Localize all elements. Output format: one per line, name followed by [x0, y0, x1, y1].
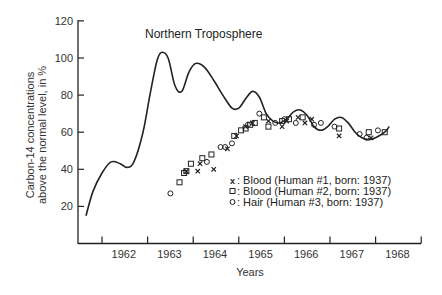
chart-title: Northern Troposphere — [145, 27, 263, 41]
circle-marker — [293, 120, 298, 125]
x-marker — [296, 115, 300, 119]
x-tick-label: 1964 — [203, 248, 227, 260]
y-axis-title: Carbon-14 concentrations above the norma… — [24, 66, 48, 204]
circle-marker — [318, 120, 323, 125]
y-tick-label: 120 — [55, 15, 73, 27]
x-marker-icon: x — [230, 176, 235, 186]
x-tick-label: 1967 — [340, 248, 364, 260]
x-tick-label: 1962 — [112, 248, 136, 260]
x-tick-label: 1966 — [294, 248, 318, 260]
x-marker — [280, 124, 284, 128]
x-marker — [337, 134, 341, 138]
x-tick-label: 1965 — [248, 248, 272, 260]
legend-item-hair-3: : Hair (Human #3, born: 1937) — [230, 196, 383, 208]
square-marker — [177, 180, 182, 185]
circle-marker — [375, 128, 380, 133]
circle-marker — [257, 111, 262, 116]
x-tick-label: 1963 — [157, 248, 181, 260]
circle-marker — [204, 159, 209, 164]
x-ticks: 1962196319641965196619671968 — [102, 237, 421, 261]
circle-marker-icon — [230, 200, 235, 205]
chart-canvas: 20406080100120 1962196319641965196619671… — [0, 0, 442, 295]
square-marker — [261, 115, 266, 120]
y-tick-label: 40 — [61, 163, 73, 175]
square-marker — [200, 156, 205, 161]
x-tick-label: 1968 — [385, 248, 409, 260]
legend: x : Blood (Human #1, born: 1937) : Blood… — [230, 174, 391, 208]
x-marker — [212, 167, 216, 171]
square-marker — [188, 161, 193, 166]
legend-label: : Hair (Human #3, born: 1937) — [237, 196, 383, 208]
square-marker — [266, 124, 271, 129]
y-tick-label: 80 — [61, 89, 73, 101]
y-ticks: 20406080100120 — [55, 15, 84, 213]
y-axis-title-line-2: above the normal level, in % — [36, 66, 48, 204]
circle-marker — [168, 191, 173, 196]
x-marker — [198, 162, 202, 166]
y-tick-label: 20 — [61, 200, 73, 212]
y-tick-label: 100 — [55, 52, 73, 64]
circle-marker — [229, 141, 234, 146]
x-marker — [303, 121, 307, 125]
x-marker — [266, 119, 270, 123]
square-marker-icon — [230, 189, 235, 194]
x-marker — [196, 169, 200, 173]
x-axis-title: Years — [236, 266, 264, 278]
y-axis-title-line-1: Carbon-14 concentrations — [24, 71, 36, 198]
y-tick-label: 60 — [61, 126, 73, 138]
square-marker — [366, 130, 371, 135]
square-marker — [209, 152, 214, 157]
square-marker — [300, 115, 305, 120]
